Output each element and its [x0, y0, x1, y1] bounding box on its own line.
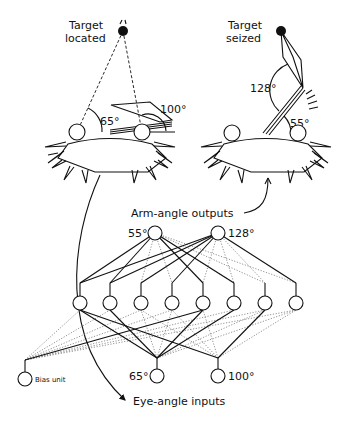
target-seized-line1: Target [227, 19, 263, 32]
target-seized-line2: seized [226, 32, 261, 45]
hidden-node [227, 296, 241, 310]
hidden-node [289, 296, 303, 310]
input-node-100-label: 100° [228, 370, 255, 383]
neural-network: 55° 128° 65° 100° Bias unit [18, 226, 303, 386]
eye-angle-100-label: 100° [160, 103, 187, 116]
elbow-angle-128-label: 128° [250, 82, 277, 95]
hidden-node [165, 296, 179, 310]
left-eye-icon [224, 125, 240, 141]
hidden-node [134, 296, 148, 310]
hidden-node [196, 296, 210, 310]
target-located-line2: located [65, 32, 106, 45]
output-node-128 [211, 226, 225, 240]
input-node-65-label: 65° [129, 370, 149, 383]
crab-network-diagram: Target located 65° 100° [0, 0, 346, 421]
outputs-connector [244, 178, 268, 213]
left-eye-icon [69, 124, 85, 140]
input-node-100 [211, 369, 225, 383]
right-eye-icon [134, 124, 150, 140]
left-crab-panel: Target located 65° 100° [45, 19, 187, 183]
right-crab-panel: Target seized 128° 55° [201, 19, 331, 183]
crab-body-icon [214, 139, 322, 173]
crab-body-icon [58, 139, 166, 173]
input-node-65 [150, 369, 164, 383]
inputs-connector [77, 175, 125, 400]
eye-angle-65-label: 65° [100, 115, 120, 128]
output-node-128-label: 128° [228, 227, 255, 240]
bias-unit-label: Bias unit [35, 376, 66, 384]
hidden-node [103, 296, 117, 310]
output-node-55-label: 55° [128, 227, 148, 240]
output-node-55 [148, 226, 162, 240]
target-located-line1: Target [68, 19, 104, 32]
eye-angle-inputs-label: Eye-angle inputs [133, 395, 226, 408]
arm-angle-outputs-label: Arm-angle outputs [131, 207, 234, 220]
bias-unit-node [18, 372, 32, 386]
hidden-node [258, 296, 272, 310]
hidden-node [73, 296, 87, 310]
right-eye-icon [290, 125, 306, 141]
